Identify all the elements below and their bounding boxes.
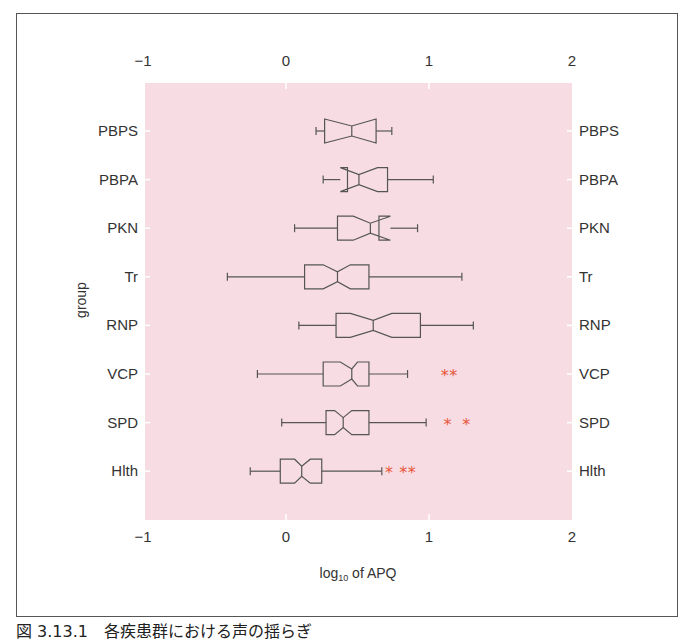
category-label-right: PBPS [579, 122, 619, 139]
x-tick-label-bottom: −1 [134, 528, 151, 545]
category-label-left: PBPA [99, 171, 138, 188]
x-tick-label-top: −1 [134, 52, 151, 69]
left-category-labels: PBPSPBPAPKNTrRNPVCPSPDHlth [98, 122, 150, 479]
outlier-marker: * [385, 463, 393, 482]
outlier-marker: * [462, 415, 470, 434]
x-tick-label-top: 0 [282, 52, 290, 69]
right-category-labels: PBPSPBPAPKNTrRNPVCPSPDHlth [567, 122, 619, 479]
category-label-right: RNP [579, 316, 611, 333]
category-label-right: Tr [579, 268, 593, 285]
x-tick-label-top: 2 [568, 52, 576, 69]
category-label-right: PKN [579, 219, 610, 236]
plot-background [145, 83, 572, 520]
category-label-left: PBPS [98, 122, 138, 139]
category-label-left: Hlth [111, 462, 138, 479]
category-label-left: SPD [107, 414, 138, 431]
x-axis-title: log10 of APQ [320, 565, 397, 583]
category-label-right: VCP [579, 365, 610, 382]
outlier-marker: * [449, 366, 457, 385]
category-label-left: RNP [106, 316, 138, 333]
outlier-marker: * [444, 415, 452, 434]
outlier-marker: * [441, 366, 449, 385]
category-label-left: Tr [124, 268, 138, 285]
category-label-right: Hlth [579, 462, 606, 479]
outlier-marker: * [408, 463, 416, 482]
x-tick-label-top: 1 [425, 52, 433, 69]
outlier-marker: * [399, 463, 407, 482]
category-label-right: SPD [579, 414, 610, 431]
x-tick-label-bottom: 1 [425, 528, 433, 545]
y-axis-title: group [73, 282, 89, 318]
x-tick-label-bottom: 2 [568, 528, 576, 545]
category-label-left: PKN [107, 219, 138, 236]
category-label-right: PBPA [579, 171, 618, 188]
figure-caption: 図 3.13.1 各疾患群における声の揺らぎ [16, 622, 312, 642]
category-label-left: VCP [107, 365, 138, 382]
x-tick-label-bottom: 0 [282, 528, 290, 545]
